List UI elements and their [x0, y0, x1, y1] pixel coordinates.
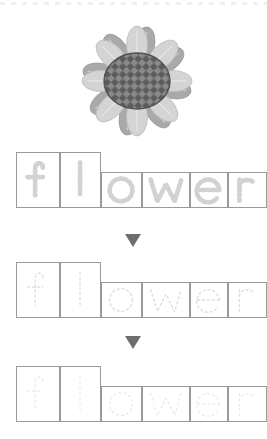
- trace-row-2[interactable]: [16, 262, 252, 318]
- letter-cell-w-row2[interactable]: [142, 282, 190, 318]
- letter-cell-e-row1[interactable]: [190, 172, 228, 208]
- letter-cell-o-row3[interactable]: [101, 386, 142, 422]
- letter-glyph-w: [143, 173, 189, 207]
- letter-cell-l-row3[interactable]: [60, 366, 101, 422]
- letter-cell-r-row1[interactable]: [228, 172, 267, 208]
- letter-glyph-e: [191, 387, 227, 421]
- letter-glyph-l: [61, 367, 100, 421]
- letter-cell-f-row3[interactable]: [16, 366, 60, 422]
- letter-glyph-o: [102, 387, 141, 421]
- letter-cell-r-row2[interactable]: [228, 282, 267, 318]
- letter-glyph-e: [191, 173, 227, 207]
- letter-cell-o-row2[interactable]: [101, 282, 142, 318]
- letter-cell-l-row1[interactable]: [60, 152, 101, 208]
- letter-glyph-r: [229, 173, 266, 207]
- letter-glyph-f: [17, 367, 59, 421]
- letter-cell-f-row1[interactable]: [16, 152, 60, 208]
- letter-glyph-w: [143, 387, 189, 421]
- flower-illustration: [76, 24, 198, 140]
- letter-cell-w-row1[interactable]: [142, 172, 190, 208]
- letter-cell-e-row3[interactable]: [190, 386, 228, 422]
- step-arrow-1: [125, 234, 141, 247]
- letter-cell-w-row3[interactable]: [142, 386, 190, 422]
- letter-glyph-w: [143, 283, 189, 317]
- letter-cell-e-row2[interactable]: [190, 282, 228, 318]
- letter-glyph-e: [191, 283, 227, 317]
- letter-cell-o-row1[interactable]: [101, 172, 142, 208]
- letter-glyph-l: [61, 153, 100, 207]
- letter-cell-f-row2[interactable]: [16, 262, 60, 318]
- flower-icon: [76, 24, 198, 140]
- letter-glyph-f: [17, 153, 59, 207]
- trace-row-3[interactable]: [16, 366, 252, 422]
- step-arrow-2: [125, 336, 141, 349]
- trace-row-1[interactable]: [16, 152, 252, 208]
- letter-cell-r-row3[interactable]: [228, 386, 267, 422]
- letter-glyph-r: [229, 283, 266, 317]
- letter-glyph-l: [61, 263, 100, 317]
- letter-glyph-o: [102, 173, 141, 207]
- letter-cell-l-row2[interactable]: [60, 262, 101, 318]
- top-dotted-rule: [0, 2, 267, 5]
- letter-glyph-o: [102, 283, 141, 317]
- letter-glyph-r: [229, 387, 266, 421]
- letter-glyph-f: [17, 263, 59, 317]
